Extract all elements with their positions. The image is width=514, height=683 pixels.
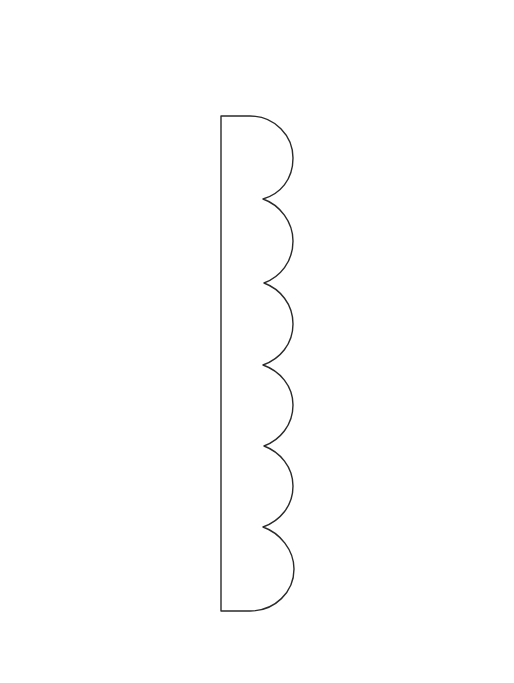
scalloped-strip-outline bbox=[221, 116, 294, 611]
scalloped-strip-shape bbox=[0, 0, 514, 683]
page-canvas bbox=[0, 0, 514, 683]
